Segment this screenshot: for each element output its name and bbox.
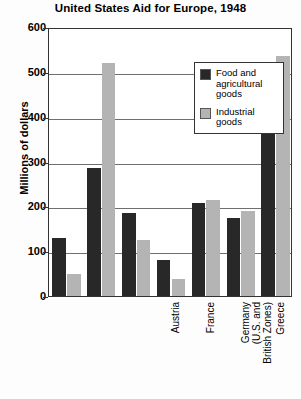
bar bbox=[206, 200, 220, 296]
bar bbox=[67, 274, 81, 296]
legend-item-label: Food and agricultural goods bbox=[216, 68, 262, 100]
legend-item: Food and agricultural goods bbox=[200, 68, 279, 100]
gridline bbox=[49, 208, 291, 209]
y-axis-tick-mark bbox=[43, 297, 48, 298]
bar bbox=[87, 168, 101, 296]
chart-legend: Food and agricultural goodsIndustrial go… bbox=[194, 62, 284, 134]
bar bbox=[52, 238, 66, 296]
x-axis-category-label: Austria bbox=[170, 302, 181, 399]
y-axis-title: Millions of dollars bbox=[18, 78, 30, 218]
y-axis-tick-label: 600 bbox=[6, 21, 46, 33]
x-axis-category-label: France bbox=[205, 302, 216, 399]
legend-swatch-icon bbox=[200, 69, 211, 80]
chart-title: United States Aid for Europe, 1948 bbox=[0, 2, 301, 14]
legend-swatch-icon bbox=[200, 108, 211, 119]
legend-item: Industrial goods bbox=[200, 107, 279, 128]
x-axis-category-label: Greece bbox=[275, 302, 286, 399]
bar bbox=[172, 279, 186, 296]
bar bbox=[122, 213, 136, 296]
y-axis-tick-label: 0 bbox=[6, 290, 46, 302]
bar-chart: United States Aid for Europe, 1948 Milli… bbox=[0, 0, 301, 399]
bar bbox=[192, 203, 206, 296]
y-axis-tick-label: 400 bbox=[6, 111, 46, 123]
plot-area: Food and agricultural goodsIndustrial go… bbox=[48, 28, 292, 297]
bar bbox=[157, 260, 171, 296]
bar bbox=[241, 211, 255, 296]
y-axis-tick-label: 100 bbox=[6, 245, 46, 257]
legend-item-label: Industrial goods bbox=[216, 107, 255, 128]
bar bbox=[137, 240, 151, 296]
bar bbox=[227, 218, 241, 296]
y-axis-tick-label: 200 bbox=[6, 200, 46, 212]
x-axis-category-label: Germany (U.S. and British Zones) bbox=[240, 302, 273, 399]
y-axis-tick-label: 500 bbox=[6, 66, 46, 78]
gridline bbox=[49, 164, 291, 165]
y-axis-tick-label: 300 bbox=[6, 156, 46, 168]
bar bbox=[102, 63, 116, 296]
